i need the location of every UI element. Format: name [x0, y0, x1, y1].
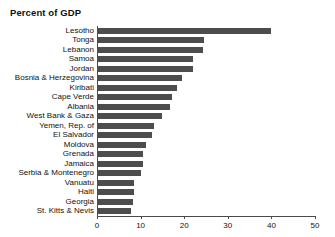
bar-row — [97, 208, 315, 214]
bar — [97, 104, 170, 110]
bar — [97, 113, 162, 119]
bar — [97, 85, 177, 91]
bar-row — [97, 94, 315, 100]
bar-row — [97, 56, 315, 62]
bar-row — [97, 66, 315, 72]
bar — [97, 189, 134, 195]
bar — [97, 56, 193, 62]
x-axis-tick-label: 40 — [259, 221, 283, 230]
category-label: Jordan — [2, 66, 97, 72]
bar-row — [97, 75, 315, 81]
category-label: Kiribati — [2, 85, 97, 91]
chart-title: Percent of GDP — [10, 7, 81, 18]
category-label: Samoa — [2, 56, 97, 62]
bar — [97, 94, 172, 100]
category-label: Moldova — [2, 142, 97, 148]
category-label: Haiti — [2, 189, 97, 195]
x-axis-tick-label: 50 — [303, 221, 327, 230]
category-label: St. Kitts & Nevis — [2, 208, 97, 214]
x-axis-tick — [271, 216, 272, 219]
bar-row — [97, 113, 315, 119]
x-axis-tick — [184, 216, 185, 219]
bar — [97, 132, 152, 138]
x-axis-tick-label: 0 — [85, 221, 109, 230]
x-axis-tick — [141, 216, 142, 219]
x-axis-tick-label: 20 — [172, 221, 196, 230]
bar — [97, 47, 203, 53]
bar — [97, 75, 182, 81]
plot-area: 01020304050 — [97, 26, 315, 216]
bar — [97, 151, 143, 157]
bar-row — [97, 189, 315, 195]
category-label: Jamaica — [2, 161, 97, 167]
x-axis-tick — [228, 216, 229, 219]
category-label: Lesotho — [2, 28, 97, 34]
bar-chart: Percent of GDP LesothoTongaLebanonSamoaJ… — [0, 0, 335, 237]
bar-row — [97, 37, 315, 43]
bar — [97, 142, 146, 148]
bar — [97, 123, 154, 129]
bar — [97, 28, 271, 34]
category-label: Albania — [2, 104, 97, 110]
category-label: Serbia & Montenegro — [2, 170, 97, 176]
category-axis-labels: LesothoTongaLebanonSamoaJordanBosnia & H… — [0, 26, 97, 216]
category-label: El Salvador — [2, 132, 97, 138]
bar — [97, 208, 131, 214]
category-label: Yemen, Rep. of — [2, 123, 97, 129]
category-label: Vanuatu — [2, 180, 97, 186]
bar-row — [97, 28, 315, 34]
bar — [97, 161, 143, 167]
category-label: Tonga — [2, 37, 97, 43]
bar — [97, 170, 141, 176]
x-axis-tick — [97, 216, 98, 219]
bar-row — [97, 85, 315, 91]
bar — [97, 37, 204, 43]
bar-row — [97, 104, 315, 110]
x-axis-tick-label: 30 — [216, 221, 240, 230]
category-label: Lebanon — [2, 47, 97, 53]
bar-row — [97, 132, 315, 138]
bar — [97, 180, 134, 186]
bar-row — [97, 180, 315, 186]
x-axis-tick — [315, 216, 316, 219]
bar-row — [97, 161, 315, 167]
y-axis-line — [97, 26, 98, 216]
x-axis-line — [97, 216, 315, 217]
bar-row — [97, 170, 315, 176]
category-label: Bosnia & Herzegovina — [2, 75, 97, 81]
bar-row — [97, 199, 315, 205]
category-label: Grenada — [2, 151, 97, 157]
bar-row — [97, 123, 315, 129]
bar-row — [97, 142, 315, 148]
bar-row — [97, 47, 315, 53]
bar — [97, 199, 133, 205]
bar-row — [97, 151, 315, 157]
category-label: West Bank & Gaza — [2, 113, 97, 119]
category-label: Georgia — [2, 199, 97, 205]
x-axis-tick-label: 10 — [129, 221, 153, 230]
category-label: Cape Verde — [2, 94, 97, 100]
bar — [97, 66, 193, 72]
